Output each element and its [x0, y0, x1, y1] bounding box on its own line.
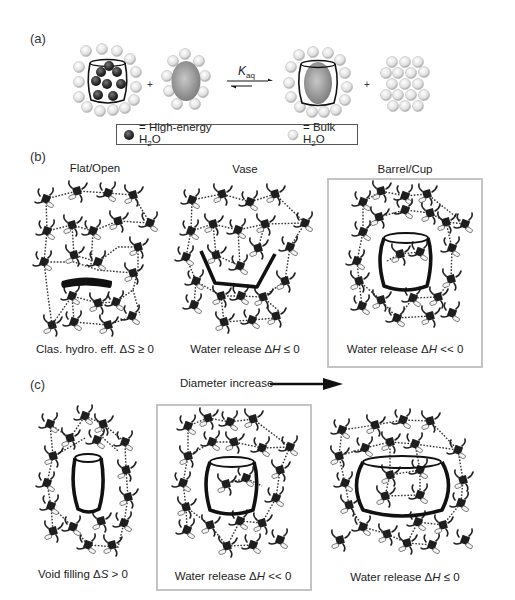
diameter-increase-label: Diameter increase	[180, 377, 273, 389]
vase-caption: Water release ΔH ≤ 0	[170, 343, 320, 355]
void-filling-water-molecules	[36, 405, 138, 556]
barrel-cup-water-molecules	[346, 181, 473, 327]
narrow-host-shape	[73, 454, 103, 512]
flat-host-surface	[61, 278, 112, 289]
panel-c-label: (c)	[30, 377, 45, 392]
wide-barrel-host-shape	[357, 456, 449, 516]
vase-water-molecules	[175, 184, 313, 333]
medium-diameter-caption: Water release ΔH << 0	[158, 570, 308, 582]
wide-diameter-caption: Water release ΔH ≤ 0	[330, 571, 480, 583]
barrel-cup-caption: Water release ΔH << 0	[330, 343, 480, 355]
diameter-increase-arrow	[270, 378, 343, 390]
void-filling-caption: Void filling ΔS > 0	[8, 568, 158, 580]
wide-diameter-water-molecules	[330, 409, 473, 554]
medium-diameter-highlight-box	[156, 404, 312, 591]
flat-open-caption: Clas. hydro. eff. ΔS ≥ 0	[20, 343, 170, 355]
